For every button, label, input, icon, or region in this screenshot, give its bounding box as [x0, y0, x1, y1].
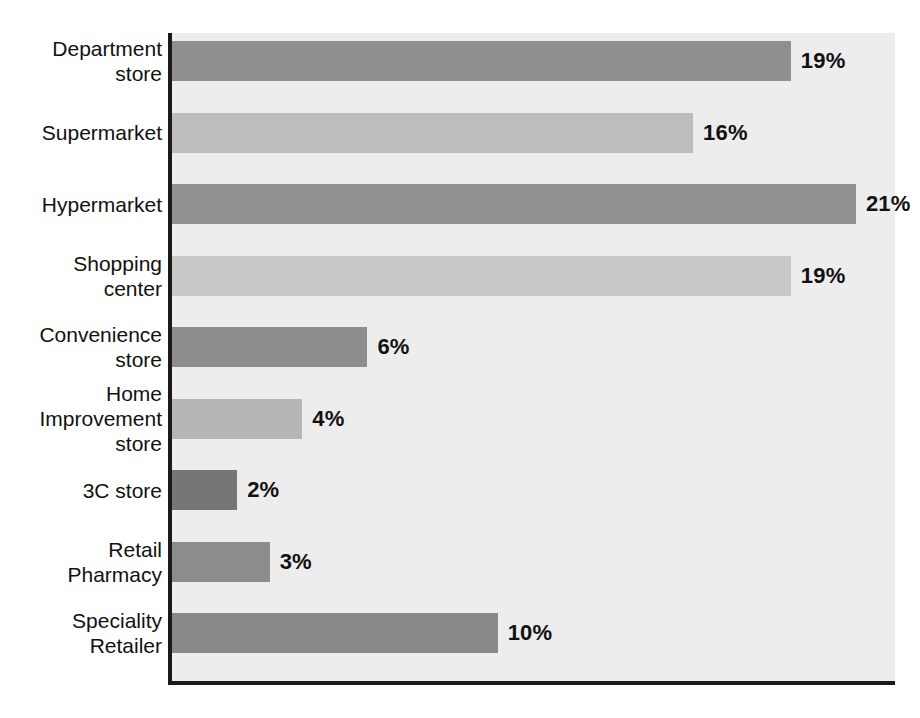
bar-value-label: 16% — [703, 120, 748, 146]
bar-value-label: 6% — [377, 334, 409, 360]
bar-row: 16% — [172, 113, 895, 153]
bar-value-label: 10% — [508, 620, 553, 646]
bar — [172, 41, 791, 81]
bar — [172, 256, 791, 296]
category-label: Speciality Retailer — [4, 608, 162, 658]
bar — [172, 613, 498, 653]
bar — [172, 542, 270, 582]
bar-row: 21% — [172, 184, 895, 224]
category-label: Supermarket — [4, 120, 162, 145]
bar — [172, 113, 693, 153]
bar-row: 10% — [172, 613, 895, 653]
bar-chart-figure: Department storeSupermarketHypermarketSh… — [0, 0, 920, 718]
category-label: Department store — [4, 36, 162, 86]
bar-row: 3% — [172, 542, 895, 582]
category-labels-column: Department storeSupermarketHypermarketSh… — [0, 33, 162, 685]
category-label: 3C store — [4, 478, 162, 503]
bar — [172, 327, 367, 367]
category-label: Shopping center — [4, 251, 162, 301]
bar — [172, 399, 302, 439]
bar-value-label: 3% — [280, 549, 312, 575]
bar-value-label: 19% — [801, 263, 846, 289]
bar — [172, 184, 856, 224]
bar-value-label: 21% — [866, 191, 911, 217]
bar — [172, 470, 237, 510]
bar-value-label: 4% — [312, 406, 344, 432]
bar-row: 2% — [172, 470, 895, 510]
plot-area: 19%16%21%19%6%4%2%3%10% — [168, 33, 895, 685]
category-label: Retail Pharmacy — [4, 537, 162, 587]
bar-row: 19% — [172, 41, 895, 81]
category-label: Convenience store — [4, 322, 162, 372]
bar-value-label: 19% — [801, 48, 846, 74]
category-label: Home Improvement store — [4, 381, 162, 456]
bar-row: 6% — [172, 327, 895, 367]
bar-value-label: 2% — [247, 477, 279, 503]
bar-row: 19% — [172, 256, 895, 296]
category-label: Hypermarket — [4, 192, 162, 217]
bar-row: 4% — [172, 399, 895, 439]
